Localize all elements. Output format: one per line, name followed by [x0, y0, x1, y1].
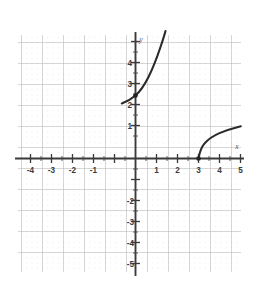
coordinate-plane-svg: -4 -3 -2 -1 1 2 3 4 5 4 3 2 1 -2 -3 -4 -… — [0, 0, 255, 292]
coordinate-graph-figure: -4 -3 -2 -1 1 2 3 4 5 4 3 2 1 -2 -3 -4 -… — [0, 0, 255, 292]
scan-grain-overlay — [0, 0, 255, 292]
